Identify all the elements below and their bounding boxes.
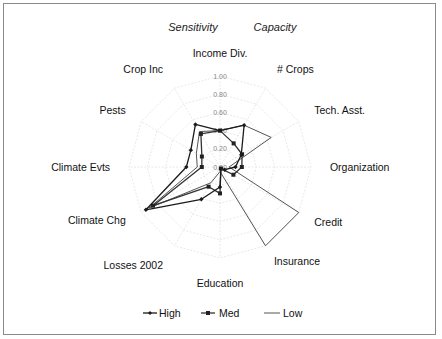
diamond-marker-icon: [148, 311, 152, 315]
diamond-marker-icon: [233, 165, 237, 169]
square-marker-icon: [232, 141, 236, 145]
diamond-marker-icon: [193, 122, 197, 126]
series-low: [149, 125, 299, 246]
legend-item-high: High: [143, 307, 181, 319]
tick-label: 0.80: [213, 91, 227, 98]
diamond-marker-icon: [189, 148, 193, 152]
tick-label: 0.60: [213, 109, 227, 116]
square-marker-icon: [240, 165, 244, 169]
axis-label: Climate Evts: [51, 161, 110, 173]
header-sensitivity: Sensitivity: [168, 21, 219, 33]
square-marker-icon: [199, 132, 203, 136]
square-marker-icon: [200, 165, 204, 169]
axis-label: Credit: [314, 216, 342, 228]
axis-label: Insurance: [274, 255, 320, 267]
legend: High Med Low: [143, 307, 303, 319]
radar-chart: Sensitivity Capacity 0.000.200.400.600.8…: [0, 0, 442, 339]
legend-item-med: Med: [201, 307, 240, 319]
square-marker-icon: [200, 155, 204, 159]
axis-label: Organization: [330, 161, 390, 173]
diamond-marker-icon: [242, 123, 246, 127]
axis-label: # Crops: [277, 63, 314, 75]
legend-label-low: Low: [283, 307, 303, 319]
axis-label: Tech. Asst.: [314, 104, 365, 116]
tick-label: 0.20: [213, 145, 227, 152]
square-marker-icon: [218, 191, 222, 195]
legend-label-high: High: [159, 307, 181, 319]
square-marker-icon: [207, 185, 211, 189]
legend-label-med: Med: [219, 307, 240, 319]
axis-label: Crop Inc: [123, 63, 163, 75]
axis-label: Pests: [99, 104, 125, 116]
header-capacity: Capacity: [254, 21, 298, 33]
grid-spoke: [141, 122, 220, 168]
axis-label: Climate Chg: [68, 214, 126, 226]
data-series: [144, 122, 299, 246]
square-marker-icon: [231, 173, 235, 177]
axis-label: Losses 2002: [103, 259, 163, 271]
axis-label: Income Div.: [193, 47, 248, 59]
axis-label: Education: [197, 277, 244, 289]
legend-item-low: Low: [264, 307, 303, 319]
square-marker-icon: [206, 311, 210, 315]
tick-label: 1.00: [213, 73, 227, 80]
